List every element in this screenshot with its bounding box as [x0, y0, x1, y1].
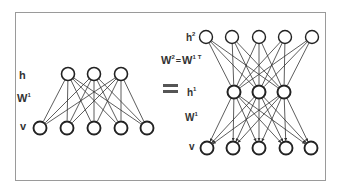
h1-v-directed-edges [210, 96, 307, 144]
network-diagram [0, 0, 338, 189]
visible-unit-node [227, 142, 240, 155]
left-rbm-edges [43, 78, 143, 124]
left-visible-label: v [20, 121, 26, 132]
visible-unit-node [280, 142, 293, 155]
edge [262, 43, 282, 85]
visible-unit-node [253, 142, 266, 155]
h1-unit-node [253, 86, 266, 99]
left-hidden-label: h [19, 70, 26, 81]
edge [210, 98, 231, 141]
edge [287, 43, 309, 86]
h2-unit-node [279, 31, 292, 44]
hidden-unit-node [62, 68, 75, 81]
edge [209, 43, 231, 86]
edge [213, 96, 279, 144]
visible-unit-node [88, 122, 101, 135]
h2-unit-node [306, 31, 319, 44]
edge [46, 78, 115, 124]
equals-sign [163, 84, 178, 93]
visible-unit-node [61, 122, 74, 135]
h1-unit-node [278, 86, 291, 99]
edge [43, 80, 65, 122]
h1-unit-node [228, 86, 241, 99]
edge [284, 43, 285, 84]
hidden-unit-node [88, 68, 101, 81]
h2-unit-node [226, 31, 239, 44]
right-h2-label: h2 [186, 31, 195, 43]
edge [287, 98, 308, 141]
hidden-unit-node [115, 68, 128, 81]
visible-unit-node [34, 122, 47, 135]
h2-unit-node [253, 31, 266, 44]
tied-weights-equation: W2=W1T [161, 54, 201, 66]
visible-unit-node [305, 142, 318, 155]
visible-unit-node [141, 122, 154, 135]
right-visible-label: v [189, 142, 195, 152]
right-h1-label: h1 [187, 86, 196, 98]
h2-h1-edges [209, 41, 309, 88]
left-weights-label: W1 [17, 92, 31, 104]
visible-unit-node [201, 142, 214, 155]
right-weights-label: W1 [185, 111, 198, 123]
visible-unit-node [115, 122, 128, 135]
h2-unit-node [200, 31, 213, 44]
edge [264, 42, 307, 87]
edge [99, 79, 142, 123]
